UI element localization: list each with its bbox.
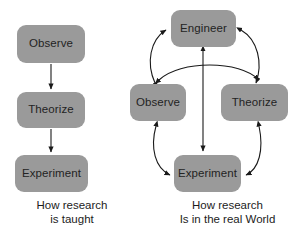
caption-right-line-2: Is in the real World: [155, 212, 300, 226]
node-right-engineer: Engineer: [171, 10, 236, 47]
node-left-theorize: Theorize: [17, 92, 85, 128]
node-left-theorize-label: Theorize: [28, 104, 74, 116]
caption-how-research-is-in-the-real-world: How research Is in the real World: [155, 198, 300, 226]
node-right-engineer-label: Engineer: [180, 23, 227, 35]
caption-right-line-1: How research: [155, 198, 300, 212]
node-right-observe: Observe: [130, 84, 186, 121]
node-right-theorize: Theorize: [221, 84, 288, 121]
arrow-right-observe-theorize: [159, 65, 259, 80]
node-left-experiment: Experiment: [15, 155, 88, 192]
caption-how-research-is-taught: How research is taught: [2, 198, 142, 226]
caption-left-line-2: is taught: [2, 212, 142, 226]
node-left-observe: Observe: [17, 25, 85, 63]
caption-left-line-1: How research: [2, 198, 142, 212]
node-right-theorize-label: Theorize: [232, 97, 278, 109]
node-right-experiment-label: Experiment: [178, 168, 237, 180]
node-right-observe-label: Observe: [136, 97, 180, 109]
arrow-right-engineer-theorize: [241, 30, 259, 83]
arrow-right-observe-experiment: [154, 126, 170, 175]
node-right-experiment: Experiment: [174, 155, 241, 192]
arrow-right-observe-engineer: [150, 30, 166, 83]
node-left-observe-label: Observe: [29, 38, 73, 50]
arrow-right-theorize-experiment: [246, 126, 261, 175]
research-process-diagram: Observe Theorize Experiment How research…: [0, 0, 302, 242]
node-left-experiment-label: Experiment: [22, 168, 81, 180]
